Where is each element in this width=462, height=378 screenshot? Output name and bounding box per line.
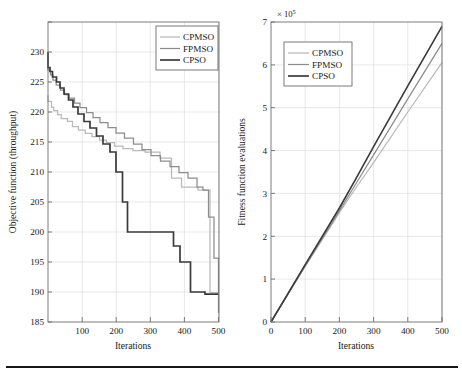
left-chart-svg: 185 190 195 200 205 210 215 220 225 230 … — [0, 0, 231, 356]
right-ytick-5: 5 — [262, 103, 267, 113]
right-ytick-1: 1 — [262, 274, 267, 284]
right-legend-label-cpmso: CPMSO — [312, 48, 344, 58]
left-xtick-3: 400 — [178, 326, 192, 336]
right-xtick-1: 100 — [298, 326, 312, 336]
right-xtick-4: 400 — [401, 326, 415, 336]
right-xtick-0: 0 — [269, 326, 274, 336]
series-line-cpso-left — [48, 52, 219, 294]
right-legend-label-cpso: CPSO — [312, 71, 335, 81]
right-ytick-3: 3 — [262, 189, 267, 199]
left-legend[interactable]: CPMSO FPMSO CPSO — [156, 26, 218, 70]
right-legend-label-fpmso: FPMSO — [312, 60, 342, 70]
left-xtick-0: 100 — [75, 326, 89, 336]
series-line-cpmso-right — [271, 63, 442, 322]
right-y-ticks: 0 1 2 3 4 5 6 7 — [262, 17, 275, 327]
left-ytick-1: 190 — [30, 287, 44, 297]
chart-panel-right: × 105 0 1 2 3 4 5 6 7 — [231, 0, 462, 356]
right-chart-svg: × 105 0 1 2 3 4 5 6 7 — [231, 0, 462, 356]
right-ytick-2: 2 — [262, 232, 267, 242]
left-ytick-0: 185 — [30, 317, 44, 327]
left-yaxis-label: Objective function (throughput) — [7, 111, 19, 234]
left-ytick-8: 225 — [30, 77, 44, 87]
right-ytick-4: 4 — [262, 146, 267, 156]
left-ytick-9: 230 — [30, 47, 44, 57]
right-ytick-0: 0 — [262, 317, 267, 327]
left-ytick-4: 205 — [30, 197, 44, 207]
right-yaxis-label: Fitness function evaluations — [236, 118, 247, 226]
left-xtick-1: 200 — [109, 326, 123, 336]
left-x-ticks: 100 200 300 400 500 — [75, 317, 225, 336]
left-ytick-3: 200 — [30, 227, 44, 237]
right-x-ticks: 0 100 200 300 400 500 — [269, 317, 450, 336]
right-yaxis-exponent: × 105 — [277, 8, 296, 19]
left-xtick-2: 300 — [143, 326, 157, 336]
right-xaxis-label: Iterations — [338, 340, 374, 351]
right-xtick-2: 200 — [333, 326, 347, 336]
left-legend-label-fpmso: FPMSO — [183, 44, 213, 54]
left-legend-label-cpmso: CPMSO — [183, 32, 215, 42]
left-ytick-2: 195 — [30, 257, 44, 267]
left-legend-label-cpso: CPSO — [183, 55, 206, 65]
bottom-divider-rule — [6, 366, 458, 368]
right-ytick-6: 6 — [262, 60, 267, 70]
right-legend[interactable]: CPMSO FPMSO CPSO — [284, 42, 352, 86]
right-xtick-3: 300 — [367, 326, 381, 336]
series-line-cpmso-left — [48, 95, 219, 292]
left-xtick-4: 500 — [212, 326, 226, 336]
series-line-fpmso-left — [48, 52, 219, 313]
left-ytick-5: 210 — [30, 167, 44, 177]
chart-panel-left: 185 190 195 200 205 210 215 220 225 230 … — [0, 0, 231, 356]
right-ytick-7: 7 — [262, 17, 267, 27]
right-xtick-5: 500 — [435, 326, 449, 336]
left-xaxis-label: Iterations — [115, 340, 151, 351]
left-ytick-6: 215 — [30, 137, 44, 147]
left-ytick-7: 220 — [30, 107, 44, 117]
figure-container: 185 190 195 200 205 210 215 220 225 230 … — [0, 0, 462, 378]
